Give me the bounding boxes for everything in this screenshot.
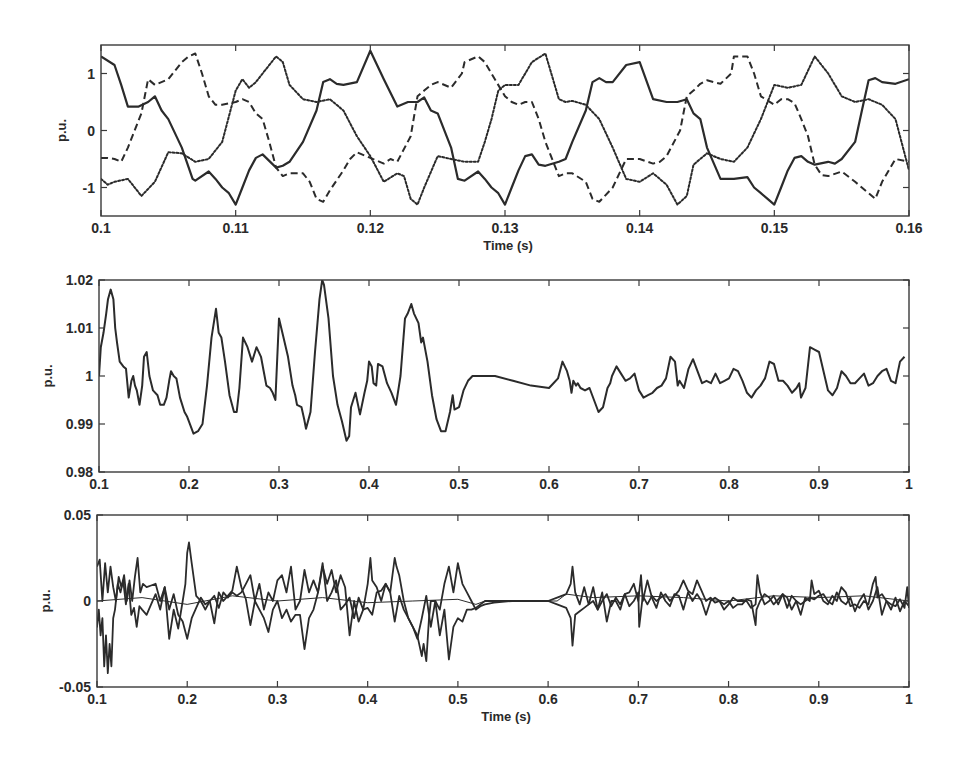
x-tick-label: 0.14 [626,220,653,236]
x-tick-label: 0.15 [761,220,788,236]
x-axis-label: Time (s) [481,709,531,724]
x-tick-label: 0.1 [91,220,111,236]
x-tick-label: 0.3 [268,691,288,707]
x-axis-label: Time (s) [483,238,533,253]
y-tick-label: 1.01 [66,320,93,336]
x-tick-label: 0.11 [222,220,249,236]
series-line-1 [101,54,909,202]
x-tick-label: 0.2 [177,691,197,707]
x-tick-label: 0.6 [539,476,559,492]
x-tick-label: 0.5 [449,476,469,492]
y-tick-label: 0.98 [66,464,93,480]
y-tick-label: 0.05 [64,507,91,523]
series-line-2 [101,54,909,205]
y-axis-label: p.u. [54,119,69,142]
y-axis-label: p.u. [40,364,55,387]
axes-box [101,45,909,216]
x-tick-label: 0.6 [538,691,558,707]
subplot-components: 0.10.20.30.40.50.60.70.80.91-0.0500.05p.… [38,507,913,724]
figure: 0.10.110.120.130.140.150.16-101p.u.Time … [0,0,963,761]
x-tick-label: 0.7 [629,476,649,492]
x-tick-label: 0.13 [491,220,518,236]
x-tick-label: 0.12 [357,220,384,236]
series-group [101,51,909,205]
x-tick-label: 0.4 [358,691,378,707]
figure-canvas: 0.10.110.120.130.140.150.16-101p.u.Time … [0,0,963,761]
y-tick-label: 0 [87,123,95,139]
series-group [99,280,905,441]
y-tick-label: 1 [85,368,93,384]
x-tick-label: 0.3 [269,476,289,492]
x-tick-label: 0.2 [179,476,199,492]
series-line-0 [99,280,905,441]
y-tick-label: -0.05 [59,679,91,695]
y-tick-label: 0 [83,593,91,609]
y-tick-label: 1.02 [66,272,93,288]
x-tick-label: 0.9 [809,691,829,707]
x-tick-label: 1 [905,691,913,707]
y-tick-label: 1 [87,66,95,82]
y-axis-label: p.u. [38,589,53,612]
x-tick-label: 0.16 [895,220,922,236]
axes-box [99,280,909,472]
series-group [97,543,909,674]
subplot-magnitude: 0.10.20.30.40.50.60.70.80.910.980.9911.0… [40,272,913,492]
x-tick-label: 0.9 [809,476,829,492]
subplot-phase-voltages: 0.10.110.120.130.140.150.16-101p.u.Time … [54,45,923,253]
x-tick-label: 0.8 [719,691,739,707]
x-tick-label: 0.4 [359,476,379,492]
x-tick-label: 0.8 [719,476,739,492]
series-line-0 [101,51,909,205]
y-tick-label: 0.99 [66,416,93,432]
y-tick-label: -1 [83,180,96,196]
x-tick-label: 0.5 [448,691,468,707]
x-tick-label: 1 [905,476,913,492]
x-tick-label: 0.7 [629,691,649,707]
